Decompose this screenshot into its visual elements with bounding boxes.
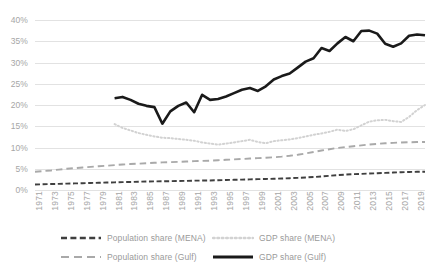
legend-item[interactable]: GDP share (MENA) [212, 233, 390, 243]
x-axis-tick-label: 2011 [352, 191, 362, 210]
y-axis-tick-label: 5% [16, 164, 29, 174]
chart-legend: Population share (MENA)GDP share (MENA)P… [60, 228, 390, 268]
x-axis-tick-label: 1997 [241, 191, 251, 211]
x-axis-tick-label: 1981 [114, 191, 124, 211]
x-axis-tick-label: 2017 [400, 191, 410, 211]
x-axis-tick-label: 2009 [336, 191, 346, 211]
legend-swatch-dashed-dark-icon [60, 234, 102, 242]
y-axis-tick-label: 30% [11, 58, 28, 68]
legend-item[interactable]: GDP share (Gulf) [212, 252, 390, 262]
x-axis-tick-label: 1987 [161, 191, 171, 211]
legend-label: Population share (Gulf) [107, 252, 197, 262]
y-axis-tick-label: 15% [11, 121, 28, 131]
series-line [115, 31, 425, 124]
x-axis-tick-label: 1993 [209, 191, 219, 211]
x-axis-tick-label: 2001 [273, 191, 283, 211]
x-axis-tick-label: 2015 [384, 191, 394, 211]
x-axis: 1971197319751977197919811983198519871989… [35, 191, 425, 223]
legend-swatch-dashed-gray-icon [60, 253, 102, 261]
x-axis-tick-label: 1979 [98, 191, 108, 211]
x-axis-tick-label: 1971 [34, 191, 44, 211]
x-axis-tick-label: 1995 [225, 191, 235, 211]
series-line [115, 105, 425, 145]
line-chart: 0%5%10%15%20%25%30%35%40% 19711973197519… [0, 0, 430, 275]
y-axis-tick-label: 40% [11, 15, 28, 25]
x-axis-tick-label: 1975 [66, 191, 76, 211]
x-axis-tick-label: 1973 [50, 191, 60, 211]
x-axis-tick-label: 2003 [289, 191, 299, 211]
legend-swatch-dotted-light-icon [212, 234, 254, 242]
y-axis-tick-label: 0% [16, 185, 29, 195]
x-axis-tick-label: 2019 [416, 191, 426, 211]
x-axis-tick-label: 1977 [82, 191, 92, 211]
series-line [35, 172, 425, 185]
y-axis-tick-label: 25% [11, 79, 28, 89]
x-axis-tick-label: 1991 [193, 191, 203, 211]
y-axis-tick-label: 35% [11, 36, 28, 46]
y-axis-tick-label: 10% [11, 143, 28, 153]
x-axis-tick-label: 1983 [129, 191, 139, 211]
legend-label: GDP share (MENA) [259, 233, 335, 243]
y-axis: 0%5%10%15%20%25%30%35%40% [0, 20, 32, 190]
legend-swatch-solid-black-icon [212, 253, 254, 261]
x-axis-tick-label: 1999 [257, 191, 267, 211]
x-axis-tick-label: 2007 [320, 191, 330, 211]
x-axis-tick-label: 1985 [145, 191, 155, 211]
legend-item[interactable]: Population share (Gulf) [60, 252, 212, 262]
legend-label: Population share (MENA) [107, 233, 206, 243]
y-axis-tick-label: 20% [11, 100, 28, 110]
series-line [35, 142, 425, 172]
x-axis-tick-label: 2013 [368, 191, 378, 211]
legend-label: GDP share (Gulf) [259, 252, 326, 262]
x-axis-tick-label: 2005 [305, 191, 315, 211]
series-layer [35, 20, 425, 190]
legend-item[interactable]: Population share (MENA) [60, 233, 212, 243]
x-axis-tick-label: 1989 [177, 191, 187, 211]
